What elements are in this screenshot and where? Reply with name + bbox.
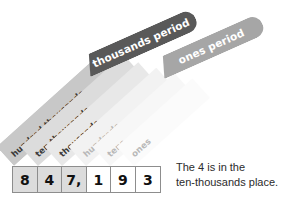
digit-value: 1 — [93, 172, 103, 188]
digit-cell-tens: 9 — [111, 167, 136, 192]
digit-value: 9 — [118, 172, 128, 188]
number-digit-row: 8 4 7, 1 9 3 — [12, 166, 161, 193]
digit-cell-hundreds: 1 — [87, 167, 112, 192]
digit-value: 4 — [44, 172, 54, 188]
digit-value: 7, — [66, 172, 81, 188]
digit-cell-hundred-thousands: 8 — [13, 167, 38, 192]
digit-cell-thousands: 7, — [62, 167, 87, 192]
digit-cell-ten-thousands: 4 — [38, 167, 63, 192]
place-value-diagram: hundred thousands ten thousands thousand… — [0, 0, 301, 203]
digit-value: 3 — [143, 172, 153, 188]
digit-value: 8 — [20, 172, 30, 188]
digit-cell-ones: 3 — [136, 167, 161, 192]
caption: The 4 is in the ten-thousands place. — [176, 160, 298, 190]
caption-line-1: The 4 is in the — [176, 160, 298, 175]
caption-line-2: ten-thousands place. — [176, 175, 298, 190]
